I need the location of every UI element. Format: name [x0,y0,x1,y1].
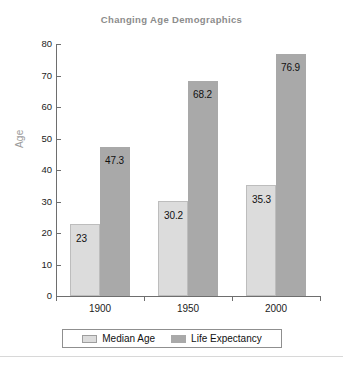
x-axis-tick [320,296,321,301]
bar-value-label: 30.2 [164,210,183,221]
y-axis-tick-label-wrap: 80 [18,39,52,49]
x-axis-line [56,296,321,297]
y-axis-tick-label-wrap: 0 [18,291,52,301]
legend-entry-1[interactable]: Life Expectancy [171,333,262,344]
x-axis-category-label: 1950 [144,303,232,314]
y-axis-tick-label: 40 [22,165,52,175]
y-axis-tick-label: 20 [22,228,52,238]
y-axis-tick-label: 80 [22,39,52,49]
y-axis-tick-label-wrap: 20 [18,228,52,238]
x-axis-category-label: 1900 [56,303,144,314]
bar-1900-series-0: 23 [70,224,100,296]
chart-legend: Median AgeLife Expectancy [62,329,282,348]
y-axis-tick-label-wrap: 50 [18,134,52,144]
y-axis-tick-label: 10 [22,260,52,270]
x-axis-tick [232,296,233,301]
footer-divider [0,356,343,357]
y-axis-tick-label: 50 [22,134,52,144]
bar-value-label: 68.2 [193,89,212,100]
bar-value-label: 23 [76,233,87,244]
chart-title: Changing Age Demographics [0,14,343,25]
y-axis-tick-label-wrap: 10 [18,260,52,270]
bar-1950-series-1: 68.2 [188,81,218,296]
bar-value-label: 76.9 [281,62,300,73]
legend-swatch-icon [171,335,186,343]
bar-2000-series-0: 35.3 [246,185,276,296]
x-axis-tick [144,296,145,301]
y-axis-tick-label: 60 [22,102,52,112]
y-axis-tick-label-wrap: 40 [18,165,52,175]
y-axis-tick-label: 70 [22,71,52,81]
bar-value-label: 47.3 [105,155,124,166]
y-axis-tick-label-wrap: 60 [18,102,52,112]
bar-1950-series-0: 30.2 [158,201,188,296]
bar-1900-series-1: 47.3 [100,147,130,296]
legend-swatch-icon [82,335,97,343]
legend-label: Life Expectancy [191,333,262,344]
y-axis-tick-label-wrap: 30 [18,197,52,207]
x-axis-tick [56,296,57,301]
y-axis-tick-label-wrap: 70 [18,71,52,81]
legend-entry-0[interactable]: Median Age [82,333,155,344]
x-axis-category-label: 2000 [232,303,320,314]
y-axis-tick-label: 0 [22,291,52,301]
y-axis-tick-label: 30 [22,197,52,207]
plot-area: 2347.330.268.235.376.9 [56,44,320,296]
legend-label: Median Age [102,333,155,344]
bar-value-label: 35.3 [252,194,271,205]
chart-figure: Changing Age Demographics Age 0102030405… [0,0,343,365]
bar-2000-series-1: 76.9 [276,54,306,296]
